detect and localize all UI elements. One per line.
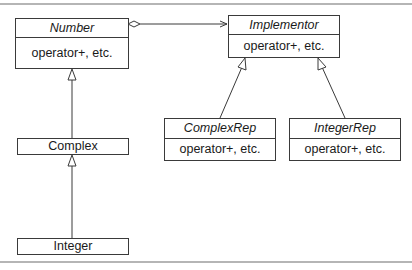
class-members: operator+, etc.: [290, 139, 400, 160]
class-name: Number: [16, 19, 128, 38]
class-members: operator+, etc.: [16, 38, 128, 68]
aggregation-diamond-icon: [128, 21, 140, 27]
class-members: operator+, etc.: [229, 35, 339, 57]
class-name: IntegerRep: [290, 119, 400, 139]
class-implementor: Implementor operator+, etc.: [228, 15, 340, 58]
generalization-triangle-icon: [238, 58, 246, 70]
class-members: operator+, etc.: [165, 139, 275, 160]
generalization-line-integerrep-implementor: [322, 67, 345, 118]
generalization-line-complexrep-implementor: [220, 67, 242, 118]
class-name: Implementor: [229, 16, 339, 35]
class-complexrep: ComplexRep operator+, etc.: [164, 118, 276, 161]
class-number: Number operator+, etc.: [15, 18, 129, 69]
class-complex: Complex: [17, 138, 129, 155]
class-name: Complex: [18, 139, 128, 154]
class-name: Integer: [18, 239, 128, 254]
class-name: ComplexRep: [165, 119, 275, 139]
generalization-triangle-icon: [68, 69, 76, 80]
generalization-triangle-icon: [318, 58, 326, 70]
generalization-triangle-icon: [68, 155, 76, 166]
class-integerrep: IntegerRep operator+, etc.: [289, 118, 401, 161]
class-integer: Integer: [17, 238, 129, 255]
